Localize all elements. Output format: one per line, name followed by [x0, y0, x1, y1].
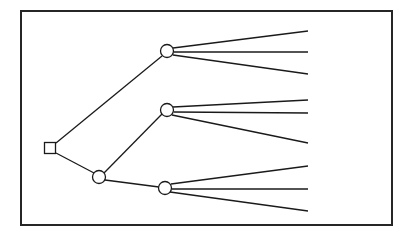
chance-node-top — [161, 45, 174, 58]
terminal-branch-top-1 — [173, 31, 308, 48]
edge-lower-to-bottom-chance — [105, 180, 159, 187]
node-group — [45, 45, 174, 195]
decision-tree-diagram — [0, 0, 412, 238]
internal-edge-group — [56, 56, 162, 187]
decision-tree-canvas — [0, 0, 412, 238]
chance-node-bottom — [159, 182, 172, 195]
terminal-branch-middle-3 — [172, 115, 308, 143]
terminal-branch-middle-1 — [173, 100, 308, 107]
chance-node-lower-left — [93, 171, 106, 184]
edge-root-to-lower-chance — [56, 153, 94, 173]
terminal-branch-middle-2 — [174, 112, 308, 113]
chance-node-middle — [161, 104, 174, 117]
terminal-branch-group — [170, 31, 308, 211]
terminal-branch-bottom-1 — [171, 166, 308, 184]
terminal-branch-bottom-3 — [170, 192, 308, 211]
edge-lower-to-middle-chance — [104, 114, 162, 173]
diagram-frame — [21, 11, 392, 225]
terminal-branch-top-3 — [173, 55, 308, 74]
root-decision-node — [45, 143, 56, 154]
